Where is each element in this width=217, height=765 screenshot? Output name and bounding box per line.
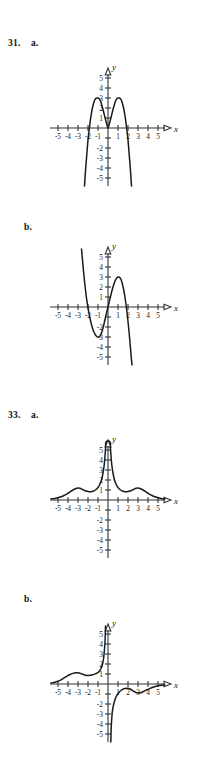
y-tick-label: -2 — [97, 516, 103, 525]
graph-panel-graph-33a: -5-4-3-2-11234512345-2-3-4-5xy — [0, 408, 217, 593]
x-axis-label: x — [173, 680, 178, 690]
problem-31-part-b-label: b. — [24, 222, 32, 232]
y-tick-label: -3 — [97, 710, 103, 719]
graph-33b: -5-4-3-2-11234512345-2-3-4-5xy — [0, 592, 217, 765]
x-axis-label: x — [173, 496, 178, 506]
x-tick-label: -3 — [75, 688, 81, 697]
x-tick-label: 3 — [136, 504, 140, 513]
x-tick-label: 3 — [136, 132, 140, 141]
x-tick-label: 5 — [156, 132, 160, 141]
x-tick-label: -1 — [95, 504, 101, 513]
y-tick-label: 4 — [99, 456, 103, 465]
x-axis-arrowhead — [164, 681, 171, 687]
x-tick-label: -2 — [85, 688, 91, 697]
curve-left-branch — [51, 626, 106, 683]
x-tick-label: -5 — [55, 504, 61, 513]
x-tick-label: -3 — [75, 311, 81, 320]
graph-panel-graph-33b: -5-4-3-2-11234512345-2-3-4-5xy — [0, 592, 217, 765]
y-axis-label: y — [111, 618, 116, 628]
graph-31b: -5-4-3-2-11234512345-2-3-4-5xy — [0, 220, 217, 405]
x-tick-label: 4 — [146, 504, 150, 513]
y-tick-label: 1 — [99, 486, 103, 495]
x-tick-label: -2 — [85, 504, 91, 513]
graph-31a: -5-4-3-2-11234512345-2-3-4-5xy — [0, 36, 217, 221]
x-axis-label: x — [173, 303, 178, 313]
x-tick-label: -5 — [55, 311, 61, 320]
x-tick-label: 5 — [156, 311, 160, 320]
x-tick-label: -3 — [75, 504, 81, 513]
y-tick-label: 2 — [99, 283, 103, 292]
y-tick-label: -3 — [97, 526, 103, 535]
x-axis-arrowhead — [164, 497, 171, 503]
y-tick-label: -3 — [97, 154, 103, 163]
x-tick-label: -1 — [95, 688, 101, 697]
y-tick-label: -5 — [97, 353, 103, 362]
x-tick-label: 4 — [146, 132, 150, 141]
x-tick-label: -5 — [55, 132, 61, 141]
x-tick-label: -1 — [95, 132, 101, 141]
y-tick-label: 3 — [99, 273, 103, 282]
x-axis-arrowhead — [164, 125, 171, 131]
problem-33-label: 33. — [8, 410, 20, 420]
y-axis-label: y — [111, 241, 116, 251]
y-tick-label: 5 — [99, 74, 103, 83]
x-tick-label: -4 — [65, 132, 71, 141]
y-tick-label: -4 — [97, 720, 103, 729]
y-tick-label: 5 — [99, 630, 103, 639]
y-axis-arrowhead — [105, 68, 111, 75]
x-tick-label: 1 — [116, 311, 120, 320]
problem-33-label-part-a: a. — [31, 410, 39, 420]
y-tick-label: 5 — [99, 253, 103, 262]
y-tick-label: -4 — [97, 164, 103, 173]
y-axis-label: y — [111, 434, 116, 444]
y-tick-label: -4 — [97, 536, 103, 545]
x-tick-label: 4 — [146, 311, 150, 320]
graph-panel-graph-31b: -5-4-3-2-11234512345-2-3-4-5xy — [0, 220, 217, 405]
x-axis-label: x — [173, 124, 178, 134]
y-tick-label: 4 — [99, 263, 103, 272]
y-tick-label: -4 — [97, 343, 103, 352]
y-tick-label: 3 — [99, 650, 103, 659]
y-tick-label: -2 — [97, 144, 103, 153]
x-tick-label: -4 — [65, 504, 71, 513]
y-tick-label: 1 — [99, 293, 103, 302]
x-tick-label: 1 — [116, 504, 120, 513]
x-tick-label: -4 — [65, 311, 71, 320]
problem-33-part-b-label: b. — [24, 594, 32, 604]
x-axis-arrowhead — [164, 304, 171, 310]
x-tick-label: -5 — [55, 688, 61, 697]
y-tick-label: -5 — [97, 174, 103, 183]
x-tick-label: -3 — [75, 132, 81, 141]
x-tick-label: 1 — [116, 132, 120, 141]
y-tick-label: -2 — [97, 700, 103, 709]
graph-33a: -5-4-3-2-11234512345-2-3-4-5xy — [0, 408, 217, 593]
x-tick-label: 5 — [156, 504, 160, 513]
problem-31-label-part-a: a. — [31, 38, 39, 48]
y-axis-arrowhead — [105, 247, 111, 254]
y-tick-label: -5 — [97, 730, 103, 739]
y-tick-label: 5 — [99, 446, 103, 455]
y-tick-label: 4 — [99, 640, 103, 649]
x-tick-label: 2 — [126, 504, 130, 513]
x-tick-label: -4 — [65, 688, 71, 697]
x-tick-label: 5 — [156, 688, 160, 697]
y-axis-label: y — [111, 62, 116, 72]
graph-panel-graph-31a: -5-4-3-2-11234512345-2-3-4-5xy — [0, 36, 217, 221]
x-tick-label: -1 — [95, 311, 101, 320]
y-tick-label: 1 — [99, 114, 103, 123]
problem-31-label: 31. — [8, 38, 20, 48]
y-tick-label: 4 — [99, 84, 103, 93]
x-tick-label: 3 — [136, 311, 140, 320]
y-tick-label: -5 — [97, 546, 103, 555]
